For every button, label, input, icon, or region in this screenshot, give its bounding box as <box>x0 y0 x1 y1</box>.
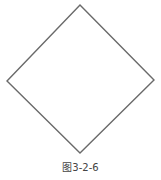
diamond-figure <box>0 0 161 158</box>
figure-caption: 图3-2-6 <box>0 162 161 174</box>
diamond-shape <box>7 5 154 153</box>
